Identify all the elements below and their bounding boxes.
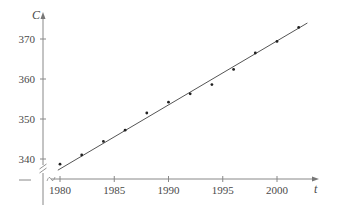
data-point bbox=[297, 26, 300, 29]
data-point bbox=[276, 40, 279, 43]
data-point bbox=[211, 83, 214, 86]
x-tick-label: 1990 bbox=[158, 184, 181, 196]
fit-line bbox=[58, 23, 308, 170]
x-tick-label: 2000 bbox=[266, 184, 289, 196]
y-axis-arrow-icon bbox=[41, 12, 46, 19]
x-axis-label: t bbox=[314, 182, 318, 196]
y-tick-label: 360 bbox=[19, 73, 36, 85]
x-tick-label: 1995 bbox=[212, 184, 235, 196]
x-axis-arrow-icon bbox=[312, 177, 319, 182]
data-points bbox=[59, 26, 301, 166]
y-tick-label: 370 bbox=[19, 33, 36, 45]
data-point bbox=[102, 140, 105, 143]
data-point bbox=[124, 129, 127, 132]
y-ticks: 340350360370 bbox=[19, 33, 47, 165]
regression-line bbox=[58, 23, 308, 170]
x-axis-break-icon bbox=[47, 177, 55, 181]
x-tick-label: 1985 bbox=[103, 184, 126, 196]
x-tick-label: 1980 bbox=[49, 184, 72, 196]
data-point bbox=[80, 154, 83, 157]
data-point bbox=[254, 52, 257, 55]
data-point bbox=[189, 92, 192, 95]
y-tick-label: 340 bbox=[19, 153, 36, 165]
data-point bbox=[232, 68, 235, 71]
data-point bbox=[145, 112, 148, 115]
axes: 19801985199019952000 340350360370 C t bbox=[19, 8, 320, 205]
y-tick-label: 350 bbox=[19, 113, 36, 125]
data-point bbox=[167, 101, 170, 104]
data-point bbox=[59, 163, 62, 166]
chart: 19801985199019952000 340350360370 C t bbox=[0, 0, 338, 218]
y-axis-break-icon bbox=[39, 164, 47, 173]
y-axis-label: C bbox=[32, 8, 41, 22]
